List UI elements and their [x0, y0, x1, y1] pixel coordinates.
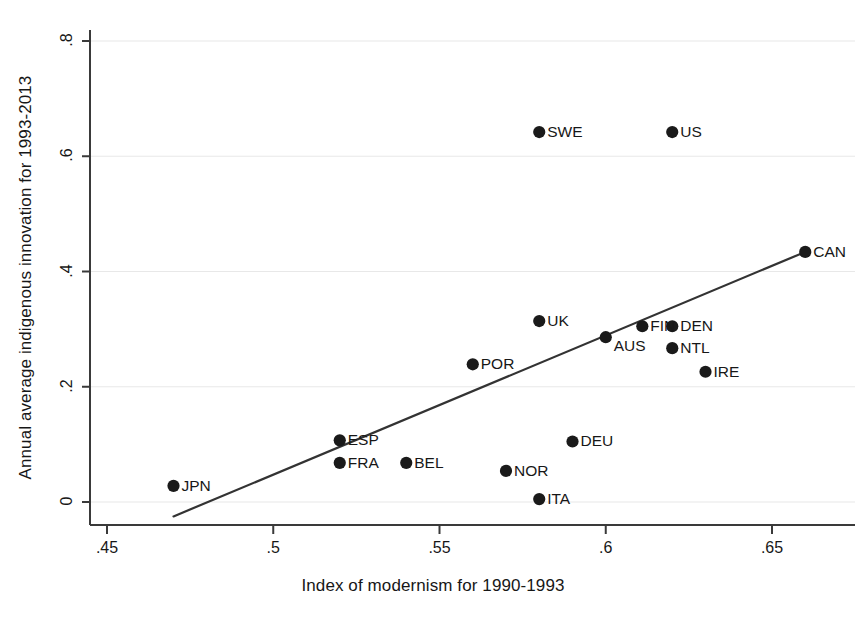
- data-point-label: FRA: [348, 454, 379, 472]
- x-tick-label: .45: [91, 539, 123, 557]
- data-point-label: IRE: [714, 363, 740, 381]
- data-point-marker: [533, 493, 545, 505]
- data-point-marker: [566, 435, 578, 447]
- data-point-marker: [666, 342, 678, 354]
- data-point-label: US: [680, 123, 702, 141]
- data-point-label: BEL: [414, 454, 443, 472]
- gridlines: [90, 41, 855, 502]
- data-point-label: NTL: [680, 339, 709, 357]
- y-tick-label: .6: [58, 140, 76, 170]
- data-point-label: AUS: [614, 337, 646, 355]
- data-point-marker: [636, 320, 648, 332]
- x-tick-label: .6: [590, 539, 622, 557]
- data-point-label: CAN: [813, 243, 846, 261]
- data-point-label: POR: [481, 355, 515, 373]
- y-tick-label: .4: [58, 256, 76, 286]
- data-point-label: SWE: [547, 123, 582, 141]
- data-point-marker: [334, 457, 346, 469]
- fit-line: [174, 252, 806, 516]
- axis-lines: [90, 30, 855, 525]
- y-axis-title: Annual average indigenous innovation for…: [16, 76, 36, 480]
- scatter-plot: [0, 0, 866, 617]
- data-point-marker: [533, 126, 545, 138]
- data-point-label: ITA: [547, 490, 570, 508]
- x-tick-label: .55: [424, 539, 456, 557]
- data-point-label: ESP: [348, 431, 379, 449]
- regression-line: [174, 252, 806, 516]
- chart-canvas: JPNESPFRABELNORITAPORUKSWEDEUAUSFINDENUS…: [0, 0, 866, 617]
- y-tick-label: .8: [58, 25, 76, 55]
- data-point-marker: [533, 315, 545, 327]
- data-point-label: FIN: [650, 317, 675, 335]
- data-point-marker: [500, 465, 512, 477]
- data-point-label: NOR: [514, 462, 548, 480]
- data-points: [167, 126, 811, 505]
- data-point-marker: [699, 366, 711, 378]
- data-point-marker: [167, 480, 179, 492]
- data-point-marker: [467, 358, 479, 370]
- data-point-marker: [400, 457, 412, 469]
- data-point-label: UK: [547, 312, 569, 330]
- data-point-marker: [600, 331, 612, 343]
- data-point-marker: [799, 246, 811, 258]
- x-tick-label: .65: [756, 539, 788, 557]
- y-tick-label: 0: [58, 486, 76, 516]
- data-point-label: JPN: [182, 477, 211, 495]
- y-tick-label: .2: [58, 371, 76, 401]
- data-point-marker: [334, 434, 346, 446]
- data-point-label: DEN: [680, 317, 713, 335]
- data-point-marker: [666, 126, 678, 138]
- data-point-label: DEU: [581, 432, 614, 450]
- x-axis-title: Index of modernism for 1990-1993: [0, 576, 866, 596]
- x-tick-label: .5: [257, 539, 289, 557]
